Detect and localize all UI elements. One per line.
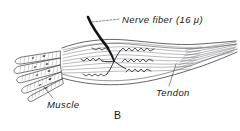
- nerve-terminal-endings: [81, 48, 154, 76]
- label-nerve-fiber: Nerve fiber (16 μ): [122, 15, 203, 25]
- belly-outline-bottom2: [62, 49, 237, 81]
- label-tendon: Tendon: [156, 88, 190, 98]
- muscle-fiber-bundles: [14, 51, 63, 101]
- leader-muscle: [44, 87, 53, 98]
- leader-nerve: [92, 19, 120, 22]
- tendon-fibers: [176, 42, 236, 68]
- figure-caption-letter: B: [114, 110, 121, 121]
- label-muscle: Muscle: [47, 100, 80, 110]
- nerve-trunk-line: [88, 17, 108, 48]
- belly-outline-bottom: [62, 52, 237, 85]
- belly-fiber-lines: [62, 43, 202, 73]
- muscle-bundle: [15, 51, 60, 64]
- belly-outline-top: [62, 39, 236, 48]
- muscle-spindle-figure: Nerve fiber (16 μ) Muscle Tendon B: [0, 0, 240, 131]
